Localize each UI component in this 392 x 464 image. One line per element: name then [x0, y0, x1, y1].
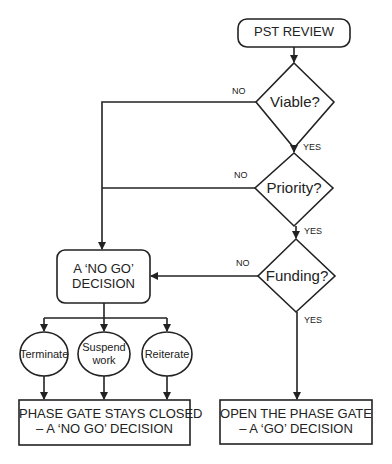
open-outcome-line1: OPEN THE PHASE GATE	[220, 407, 372, 422]
viable-decision-label: Viable?	[256, 93, 334, 110]
viable-yes-label: YES	[303, 142, 321, 152]
priority-yes-label: YES	[304, 226, 322, 236]
reiterate-label: Reiterate	[142, 348, 192, 361]
no-go-line1: A ‘NO GO’	[57, 262, 150, 277]
funding-decision-label: Funding?	[258, 267, 336, 284]
no-go-label: A ‘NO GO’ DECISION	[57, 262, 150, 292]
start-node-label: PST REVIEW	[238, 25, 350, 40]
funding-yes-label: YES	[304, 315, 322, 325]
closed-outcome-line2: – A ‘NO GO’ DECISION	[19, 422, 190, 437]
open-outcome-label: OPEN THE PHASE GATE – A ‘GO’ DECISION	[220, 407, 372, 437]
viable-no-label: NO	[232, 86, 246, 96]
terminate-label: Terminate	[20, 348, 68, 361]
suspend-line1: Suspend	[78, 341, 130, 354]
open-outcome-line2: – A ‘GO’ DECISION	[220, 422, 372, 437]
no-go-line2: DECISION	[57, 277, 150, 292]
flowchart-canvas	[0, 0, 392, 464]
funding-no-label: NO	[236, 258, 250, 268]
suspend-line2: work	[78, 354, 130, 367]
closed-outcome-label: PHASE GATE STAYS CLOSED – A ‘NO GO’ DECI…	[19, 407, 190, 437]
priority-decision-label: Priority?	[255, 179, 333, 196]
closed-outcome-line1: PHASE GATE STAYS CLOSED	[19, 407, 190, 422]
priority-no-label: NO	[234, 170, 248, 180]
suspend-label: Suspend work	[78, 341, 130, 366]
